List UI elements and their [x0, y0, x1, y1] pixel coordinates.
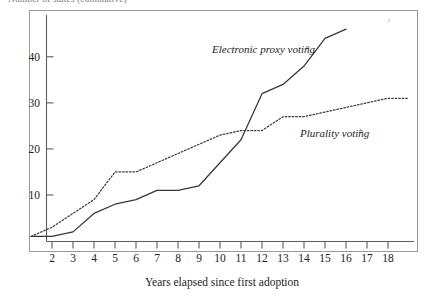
y-axis-ticks [47, 57, 54, 195]
x-tick-label: 18 [382, 252, 394, 264]
x-tick-label: 13 [277, 252, 289, 264]
x-tick-label: 8 [175, 252, 181, 264]
x-tick-label: 4 [91, 252, 97, 264]
x-tick-label: 2 [49, 252, 55, 264]
y-tick-label: 20 [29, 143, 41, 155]
line-chart-svg: 10 20 30 40 2 3 [0, 0, 427, 299]
y-axis-tick-labels: 10 20 30 40 [29, 51, 41, 201]
x-tick-label: 9 [196, 252, 202, 264]
x-tick-label: 16 [340, 252, 352, 264]
x-axis-tick-labels: 2 3 4 5 6 7 8 9 10 11 12 13 14 15 16 17 … [49, 252, 394, 264]
series-label-electronic-proxy-voting: Electronic proxy voting a [211, 43, 316, 55]
x-tick-label: 5 [112, 252, 118, 264]
x-tick-label: 7 [154, 252, 160, 264]
chart-figure: Number of states (cumulative) 10 20 30 4… [0, 0, 427, 299]
series-line-electronic-proxy-voting [31, 29, 346, 236]
scan-speck [388, 19, 390, 23]
x-axis-ticks [52, 242, 388, 249]
x-tick-label: 17 [361, 252, 373, 264]
x-tick-label: 15 [319, 252, 331, 264]
x-axis-title: Years elapsed since first adoption [145, 276, 299, 289]
x-tick-label: 11 [235, 252, 246, 264]
x-tick-label: 14 [298, 252, 310, 264]
x-tick-label: 10 [214, 252, 226, 264]
y-tick-label: 10 [29, 189, 41, 201]
series-line-plurality-voting [31, 98, 409, 236]
series-label-plurality-voting: Plurality voting b [299, 127, 370, 139]
y-tick-label: 30 [29, 97, 41, 109]
series-label-text: Electronic proxy voting [211, 43, 316, 55]
series-label-superscript: b [359, 127, 363, 135]
series-label-superscript: a [306, 43, 310, 51]
y-tick-label: 40 [29, 51, 41, 63]
x-tick-label: 3 [70, 252, 76, 264]
x-tick-label: 12 [256, 252, 268, 264]
x-tick-label: 6 [133, 252, 139, 264]
